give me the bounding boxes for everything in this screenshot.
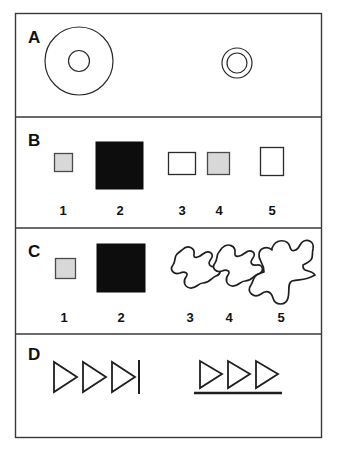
figure-container: A B 1 2 3 4 5: [0, 0, 337, 452]
b-number-2: 2: [116, 203, 123, 218]
b-item-5-white-tall-rectangle: [261, 148, 284, 176]
panel-c-letter: C: [28, 242, 40, 261]
c-number-5: 5: [277, 310, 284, 325]
figure-svg: A B 1 2 3 4 5: [0, 0, 337, 452]
b-item-4-gray-square: [208, 153, 230, 175]
b-item-2-large-black-square: [96, 142, 143, 189]
c-item-2-large-black-square: [97, 244, 145, 292]
panel-a-letter: A: [28, 28, 40, 47]
figure-background: [0, 0, 337, 452]
b-item-1-small-gray-square: [55, 154, 73, 172]
c-item-1-small-gray-square: [56, 259, 76, 279]
b-number-5: 5: [268, 203, 275, 218]
b-number-1: 1: [59, 203, 66, 218]
panel-d-letter: D: [28, 345, 40, 364]
b-item-3-white-wide-rectangle: [169, 153, 196, 175]
c-number-3: 3: [186, 310, 193, 325]
b-number-3: 3: [178, 203, 185, 218]
c-number-2: 2: [117, 310, 124, 325]
b-number-4: 4: [215, 203, 223, 218]
c-number-4: 4: [225, 310, 233, 325]
panel-b-letter: B: [28, 131, 40, 150]
c-number-1: 1: [60, 310, 67, 325]
